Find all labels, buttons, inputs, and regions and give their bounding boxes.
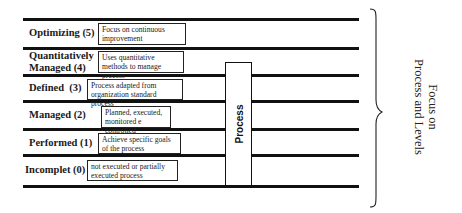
focus-caption-line: Focus on [426, 59, 440, 155]
level-description: not executed or partially executed proce… [87, 160, 178, 181]
level-label-quantitatively-managed: Quantitatively Managed (4) [29, 50, 94, 74]
level-divider [23, 100, 359, 103]
level-label-incomplete: Incomplet (0) [25, 164, 85, 176]
focus-caption: Focus on Process and Levels [412, 59, 440, 155]
level-label-defined: Defined (3) [29, 82, 82, 94]
level-label-performed: Performed (1) [29, 137, 92, 149]
curly-brace-icon [368, 8, 384, 208]
level-label-line: Quantitatively [29, 50, 94, 62]
level-description: Process adapted from organization standa… [87, 79, 183, 100]
level-description: Uses quantitative methods to manage proc… [98, 51, 184, 73]
process-label: Process [233, 105, 244, 144]
level-description: Focus on continuous improvement [98, 23, 186, 45]
level-divider [23, 154, 359, 157]
level-label-line: Managed (4) [29, 62, 94, 74]
level-description: Achieve specific goals of the process [98, 133, 181, 154]
level-label-optimizing: Optimizing (5) [29, 27, 95, 39]
focus-caption-line: Process and Levels [412, 59, 426, 155]
level-divider [23, 74, 359, 77]
level-divider [23, 128, 359, 131]
process-column: Process [225, 62, 252, 186]
level-label-managed: Managed (2) [29, 109, 86, 121]
level-divider [23, 185, 359, 188]
level-description: Planned, executed, monitored e controlle… [101, 106, 171, 128]
level-divider [23, 18, 359, 21]
